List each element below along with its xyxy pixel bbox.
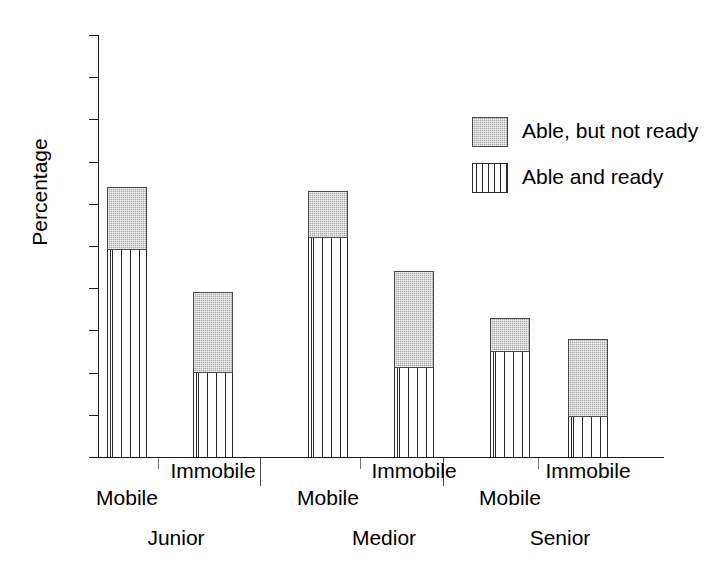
segment-able-but-not-ready bbox=[394, 271, 434, 368]
group-label-senior: Senior bbox=[480, 527, 640, 548]
y-axis-title: Percentage bbox=[28, 92, 52, 292]
y-tick-40 bbox=[89, 288, 98, 289]
x-label-mobile-2: Mobile bbox=[248, 487, 408, 508]
group-label-junior: Junior bbox=[96, 527, 256, 548]
bar-senior-mobile bbox=[490, 318, 530, 457]
x-label-immobile-5: Immobile bbox=[508, 460, 668, 481]
y-tick-30 bbox=[89, 330, 98, 331]
y-tick-50 bbox=[89, 246, 98, 247]
segment-able-but-not-ready bbox=[490, 318, 530, 352]
legend-label-able-but-not-ready: Able, but not ready bbox=[522, 114, 698, 148]
segment-able-and-ready bbox=[107, 250, 147, 457]
y-tick-0 bbox=[89, 457, 98, 458]
segment-able-but-not-ready bbox=[193, 292, 233, 372]
segment-able-and-ready bbox=[193, 373, 233, 457]
x-label-immobile-3: Immobile bbox=[334, 460, 494, 481]
segment-able-and-ready bbox=[394, 368, 434, 457]
y-tick-20 bbox=[89, 373, 98, 374]
segment-able-and-ready bbox=[308, 238, 348, 457]
plot-area: 1009080706050403020100 bbox=[98, 35, 664, 457]
segment-able-but-not-ready bbox=[308, 191, 348, 237]
group-label-medior: Medior bbox=[304, 527, 464, 548]
segment-able-and-ready bbox=[490, 352, 530, 458]
x-label-immobile-1: Immobile bbox=[133, 460, 293, 481]
legend-label-able-and-ready: Able and ready bbox=[522, 160, 663, 194]
x-axis-line bbox=[98, 457, 664, 458]
y-tick-90 bbox=[89, 77, 98, 78]
y-tick-80 bbox=[89, 119, 98, 120]
y-tick-60 bbox=[89, 204, 98, 205]
legend-swatch-able-and-ready-icon bbox=[472, 163, 508, 193]
bar-junior-mobile bbox=[107, 187, 147, 457]
segment-able-but-not-ready bbox=[107, 187, 147, 250]
segment-able-but-not-ready bbox=[568, 339, 608, 417]
bar-medior-mobile bbox=[308, 191, 348, 457]
segment-able-and-ready bbox=[568, 417, 608, 457]
bar-medior-immobile bbox=[394, 271, 434, 457]
bar-senior-immobile bbox=[568, 339, 608, 457]
bar-junior-immobile bbox=[193, 292, 233, 457]
y-tick-70 bbox=[89, 162, 98, 163]
y-tick-10 bbox=[89, 415, 98, 416]
x-label-mobile-0: Mobile bbox=[47, 487, 207, 508]
y-tick-100 bbox=[89, 35, 98, 36]
y-axis-line bbox=[98, 35, 99, 458]
legend-swatch-able-but-not-ready-icon bbox=[472, 117, 508, 147]
x-label-mobile-4: Mobile bbox=[430, 487, 590, 508]
chart-container: Percentage 1009080706050403020100 Mobile… bbox=[0, 0, 724, 568]
